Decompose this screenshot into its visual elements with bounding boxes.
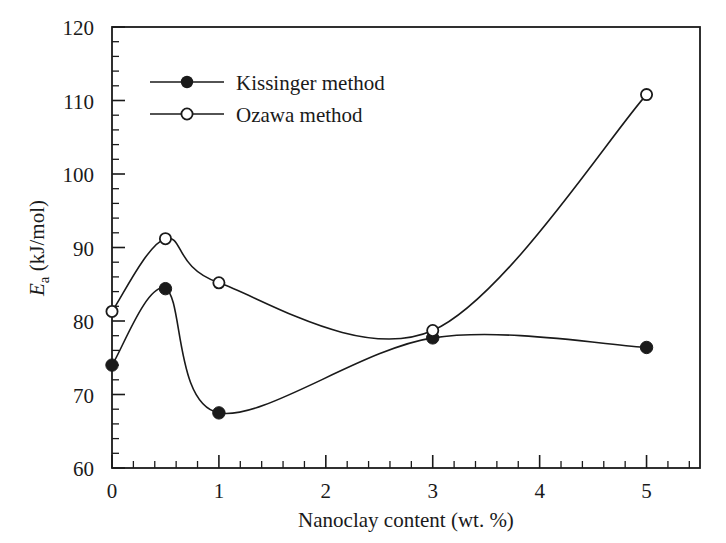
y-axis-title: Ea (kJ/mol) xyxy=(25,200,52,297)
y-tick-label: 80 xyxy=(73,310,94,334)
legend-item-2: Ozawa method xyxy=(150,103,363,127)
data-point-marker xyxy=(159,282,171,294)
data-point-markers xyxy=(106,89,653,419)
legend-marker-filled-circle-icon xyxy=(181,76,193,88)
minor-tickmarks xyxy=(112,42,689,468)
data-point-marker xyxy=(106,306,117,317)
y-tick-label: 90 xyxy=(73,237,94,261)
chart-figure: 012345 60708090100110120 Nanoclay conten… xyxy=(0,0,726,543)
x-axis-title: Nanoclay content (wt. %) xyxy=(298,508,514,532)
data-point-marker xyxy=(427,325,438,336)
x-tick-label: 3 xyxy=(427,479,438,503)
y-tick-label: 110 xyxy=(63,90,94,114)
legend-item-1: Kissinger method xyxy=(150,71,385,95)
svg-text:Ea (kJ/mol): Ea (kJ/mol) xyxy=(25,200,52,297)
data-series-curves xyxy=(112,95,647,414)
activation-energy-line-chart: 012345 60708090100110120 Nanoclay conten… xyxy=(0,0,726,543)
series-curve-1 xyxy=(112,288,647,413)
chart-legend: Kissinger methodOzawa method xyxy=(150,71,385,127)
x-tick-label: 1 xyxy=(214,479,225,503)
y-tick-label: 70 xyxy=(73,384,94,408)
y-axis-tick-labels: 60708090100110120 xyxy=(63,16,95,481)
x-tick-label: 0 xyxy=(107,479,118,503)
legend-item-label: Ozawa method xyxy=(236,103,363,127)
data-point-marker xyxy=(641,89,652,100)
series-curve-2 xyxy=(112,95,647,339)
data-point-marker xyxy=(106,359,118,371)
data-point-marker xyxy=(213,277,224,288)
data-point-marker xyxy=(160,233,171,244)
data-point-marker xyxy=(213,407,225,419)
x-tick-label: 4 xyxy=(534,479,545,503)
y-tick-label: 60 xyxy=(73,457,94,481)
legend-marker-open-circle-icon xyxy=(181,108,192,119)
x-tick-label: 2 xyxy=(321,479,332,503)
x-tick-label: 5 xyxy=(641,479,652,503)
y-tick-label: 100 xyxy=(63,163,95,187)
legend-item-label: Kissinger method xyxy=(236,71,385,95)
data-point-marker xyxy=(640,341,652,353)
y-tick-label: 120 xyxy=(63,16,95,40)
x-axis-tick-labels: 012345 xyxy=(107,479,652,503)
